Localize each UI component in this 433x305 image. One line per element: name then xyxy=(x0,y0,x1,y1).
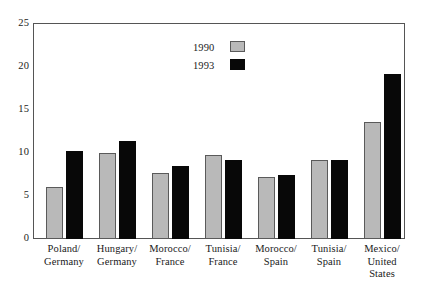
legend: 1990 1993 xyxy=(193,41,255,77)
bar-group xyxy=(98,23,140,239)
black-swatch xyxy=(230,59,245,70)
y-tick-label: 10 xyxy=(3,147,29,157)
legend-label: 1993 xyxy=(193,60,214,71)
legend-label: 1990 xyxy=(193,42,214,53)
x-tick-label-6: Mexico/ United States xyxy=(344,243,420,281)
y-tick-label: 25 xyxy=(3,18,29,28)
bar-1990 xyxy=(152,173,169,240)
y-axis: 25 20 15 10 5 0 xyxy=(0,0,29,305)
bar-group xyxy=(310,23,352,239)
x-axis: Poland/ Germany Hungary/ Germany Morocco… xyxy=(33,243,405,303)
bar-group xyxy=(45,23,87,239)
x-label-line: States xyxy=(344,268,420,281)
bar-group xyxy=(363,23,405,239)
y-tick-label: 20 xyxy=(3,61,29,71)
bar-1993 xyxy=(66,151,83,239)
gray-swatch xyxy=(230,41,245,52)
bar-1993 xyxy=(119,141,136,240)
bar-1990 xyxy=(311,160,328,239)
bar-1993 xyxy=(278,175,295,239)
bar-1993 xyxy=(384,74,401,239)
legend-item-1993: 1993 xyxy=(193,59,255,77)
legend-item-1990: 1990 xyxy=(193,41,255,59)
bar-1990 xyxy=(258,177,275,239)
bar-group xyxy=(151,23,193,239)
bar-1990 xyxy=(205,155,222,239)
y-tick-label: 5 xyxy=(3,190,29,200)
bar-1990 xyxy=(46,187,63,239)
bar-1990 xyxy=(364,122,381,239)
bar-group xyxy=(257,23,299,239)
y-tick-label: 15 xyxy=(3,104,29,114)
y-tick-label: 0 xyxy=(3,233,29,243)
bar-1993 xyxy=(172,166,189,239)
bar-chart: 25 20 15 10 5 0 xyxy=(0,0,433,305)
bar-1993 xyxy=(225,160,242,240)
x-label-line: United xyxy=(344,256,420,269)
bar-1993 xyxy=(331,160,348,239)
x-label-line: Mexico/ xyxy=(344,243,420,256)
bar-1990 xyxy=(99,153,116,239)
